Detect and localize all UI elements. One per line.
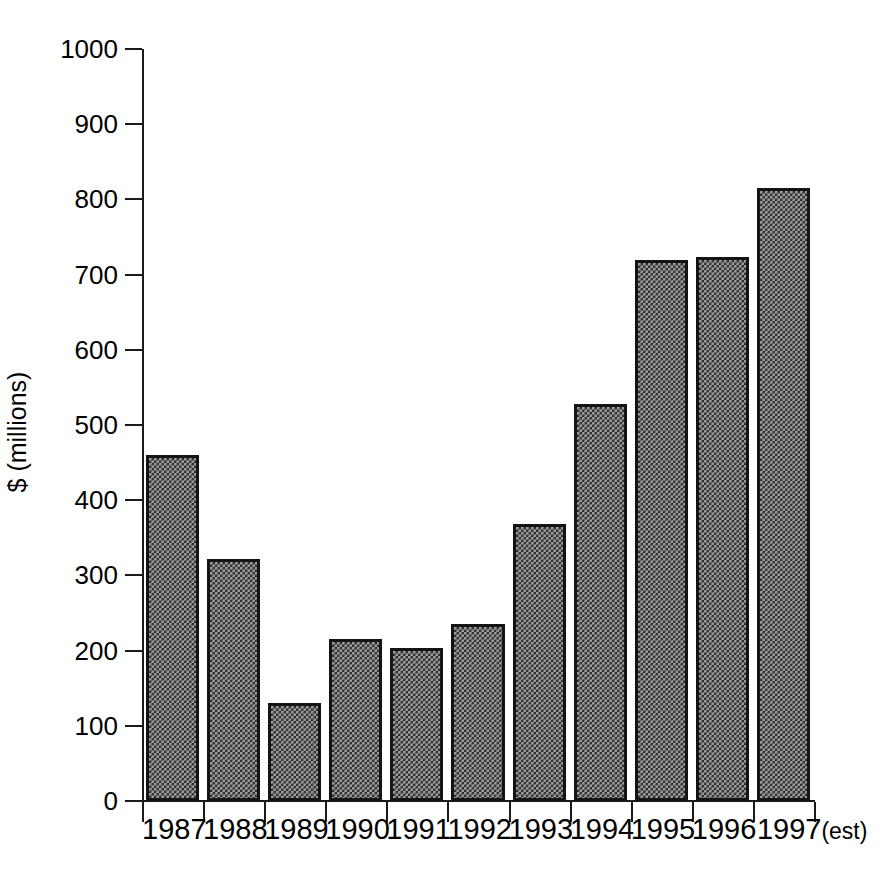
bar-1989: [268, 703, 321, 801]
y-tick-mark: [125, 574, 142, 576]
y-tick-label: 900: [75, 108, 118, 140]
bar-1996: [696, 257, 749, 801]
y-tick-label: 400: [75, 484, 118, 516]
y-tick-mark: [125, 274, 142, 276]
y-tick-label: 100: [75, 710, 118, 742]
x-axis-label-year: 1997: [757, 813, 822, 845]
y-tick-mark: [125, 725, 142, 727]
x-axis-label-year: 1993: [509, 813, 574, 845]
y-axis-title: $ (millions): [0, 302, 34, 562]
y-tick-label: 1000: [60, 33, 118, 65]
bar-1993: [513, 524, 566, 801]
bar-1991: [390, 648, 443, 801]
bar-1987: [146, 455, 199, 801]
x-axis-label-year: 1991: [386, 813, 451, 845]
bar-1994: [574, 404, 627, 801]
x-axis-label-1989: 1989: [264, 810, 325, 848]
bar-1997(est): [757, 188, 810, 801]
bar-1990: [329, 639, 382, 801]
x-axis-label-1995: 1995: [631, 810, 692, 848]
x-axis-label-year: 1995: [631, 813, 696, 845]
y-tick-label: 500: [75, 409, 118, 441]
y-tick-label: 0: [104, 785, 118, 817]
y-tick-mark: [125, 650, 142, 652]
x-axis-label-1991: 1991: [386, 810, 447, 848]
x-axis-label-year: 1988: [203, 813, 268, 845]
x-axis-label-1994: 1994: [570, 810, 631, 848]
x-axis-label-1987: 1987: [142, 810, 203, 848]
x-axis-label-year: 1987: [142, 813, 207, 845]
y-tick-label: 200: [75, 635, 118, 667]
x-axis-label-year: 1990: [325, 813, 390, 845]
x-axis-label-1993: 1993: [509, 810, 570, 848]
y-tick-label: 600: [75, 334, 118, 366]
x-axis-label-1996: 1996: [692, 810, 753, 848]
x-axis-label-year: 1994: [570, 813, 635, 845]
y-tick-label: 300: [75, 559, 118, 591]
y-tick-label: 800: [75, 183, 118, 215]
x-axis-label-estimate-suffix: (est): [821, 818, 867, 844]
y-tick-label: 700: [75, 259, 118, 291]
y-tick-mark: [125, 123, 142, 125]
y-tick-mark: [125, 499, 142, 501]
x-axis-label-1990: 1990: [325, 810, 386, 848]
y-tick-mark: [125, 198, 142, 200]
x-axis-label-1997: 1997(est): [757, 810, 888, 850]
bar-1995: [635, 260, 688, 801]
y-tick-mark: [125, 800, 142, 802]
bar-chart: $ (millions) 100090080070060050040030020…: [0, 0, 891, 875]
bar-1988: [207, 559, 260, 801]
y-tick-mark: [125, 349, 142, 351]
bar-1992: [451, 624, 504, 801]
x-axis-label-year: 1989: [264, 813, 329, 845]
x-axis-label-year: 1996: [692, 813, 757, 845]
x-axis-label-year: 1992: [447, 813, 512, 845]
x-axis-label-1988: 1988: [203, 810, 264, 848]
y-tick-mark: [125, 424, 142, 426]
plot-area: [142, 49, 814, 801]
x-axis-label-1992: 1992: [447, 810, 508, 848]
y-tick-mark: [125, 48, 142, 50]
